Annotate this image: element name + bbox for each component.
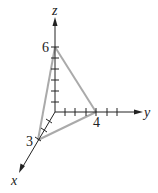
y-axis-label: y <box>142 105 151 120</box>
z-intercept-label: 6 <box>42 40 49 55</box>
x-intercept-label: 3 <box>26 134 33 149</box>
x-axis-label: x <box>10 173 18 188</box>
trace-yz <box>55 47 96 112</box>
y-intercept-label: 4 <box>93 115 100 130</box>
y-arrow-icon <box>134 110 143 115</box>
z-axis-label: z <box>51 3 58 18</box>
z-arrow-icon <box>53 17 58 26</box>
3d-axes-diagram: z y x 6 4 3 <box>0 0 158 193</box>
